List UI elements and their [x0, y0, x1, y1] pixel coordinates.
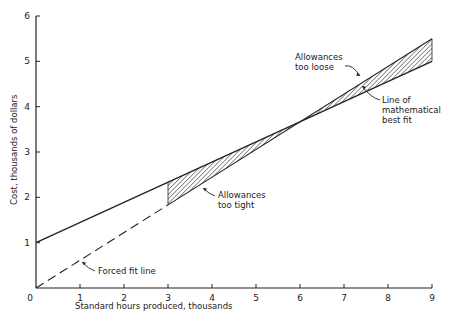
- annotation-label: Forced fit line: [98, 266, 156, 276]
- x-tick-label: 7: [341, 293, 347, 303]
- best-fit-line: [36, 61, 432, 242]
- x-tick-label: 0: [27, 293, 33, 303]
- y-tick-label: 6: [24, 11, 30, 21]
- cost-vs-hours-chart: 0123456789123456 Allowancestoo looseLine…: [0, 0, 450, 326]
- x-tick-label: 6: [297, 293, 303, 303]
- y-tick-label: 4: [24, 102, 30, 112]
- x-tick-label: 8: [385, 293, 391, 303]
- annotation-label: Line ofmathematicalbest fit: [382, 95, 441, 125]
- fit-lines: [36, 39, 432, 288]
- annotation-label: Allowancestoo loose: [295, 52, 343, 72]
- x-tick-label: 5: [253, 293, 259, 303]
- x-tick-label: 9: [429, 293, 435, 303]
- y-axis-label: Cost, thousands of dollars: [9, 94, 19, 205]
- y-tick-label: 2: [24, 192, 30, 202]
- y-tick-label: 5: [24, 56, 30, 66]
- annotation-label: Allowancestoo tight: [218, 190, 266, 210]
- x-axis-label: Standard hours produced, thousands: [75, 301, 233, 311]
- y-tick-label: 1: [24, 238, 30, 248]
- y-tick-label: 3: [24, 147, 30, 157]
- annotations: Allowancestoo looseLine ofmathematicalbe…: [82, 52, 441, 276]
